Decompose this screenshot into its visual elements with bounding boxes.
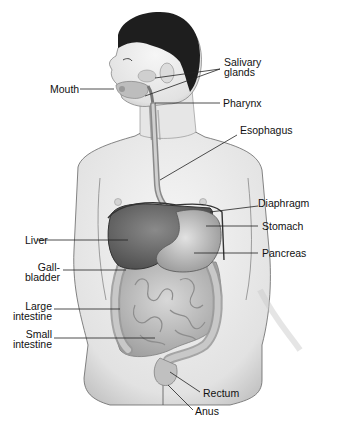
anatomy-illustration [0, 0, 338, 427]
label-anus: Anus [195, 406, 219, 416]
label-stomach: Stomach [262, 221, 303, 231]
head [109, 12, 201, 110]
label-pharynx: Pharynx [223, 98, 262, 108]
label-mouth: Mouth [50, 84, 79, 94]
label-salivary-glands: Salivary glands [224, 57, 261, 77]
label-liver: Liver [25, 235, 48, 245]
label-small-intestine-line2: intestine [8, 339, 52, 349]
label-gallbladder: Gall- bladder [22, 262, 60, 282]
label-large-intestine-line2: intestine [8, 311, 52, 321]
label-small-intestine: Small intestine [8, 329, 52, 349]
label-salivary-glands-line2: glands [224, 67, 261, 77]
label-diaphragm: Diaphragm [258, 198, 309, 208]
label-esophagus: Esophagus [240, 125, 293, 135]
digestive-system-diagram: Salivary glands Mouth Pharynx Esophagus … [0, 0, 338, 427]
label-pancreas: Pancreas [262, 248, 306, 258]
label-large-intestine: Large intestine [8, 301, 52, 321]
label-gallbladder-line2: bladder [22, 272, 60, 282]
label-rectum: Rectum [203, 388, 239, 398]
